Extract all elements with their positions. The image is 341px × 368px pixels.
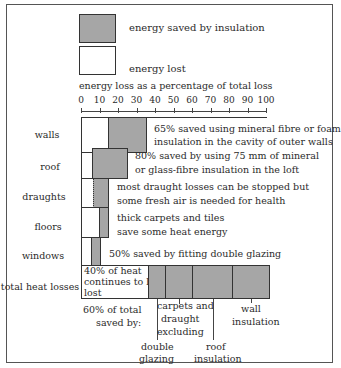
floors-note-line1: thick carpets and tiles [117, 212, 224, 224]
floors-note-line2: save some heat energy [117, 226, 227, 238]
axis-title: energy loss as a percentage of total los… [79, 80, 273, 92]
segment-label-carpets-1: carpets and [157, 300, 214, 312]
tick-label: 10 [94, 95, 105, 105]
segment-label-carpets-3: excluding [157, 326, 204, 338]
total-saved-wall [232, 265, 270, 299]
leader-roof [213, 299, 214, 340]
walls-note-line1: 65% saved using mineral fibre or foam [154, 123, 341, 135]
tick-label: 90 [242, 95, 253, 105]
draughts-note-line2: some fresh air is needed for health [117, 195, 285, 207]
legend-label-lost: energy lost [129, 63, 186, 75]
legend-swatch-saved [79, 14, 116, 43]
legend-label-saved: energy saved by insulation [129, 22, 265, 34]
axis-tick [229, 108, 230, 113]
top-margin [0, 0, 337, 3]
tick-label: 100 [257, 95, 274, 105]
segment-label-double-2: glazing [139, 353, 174, 365]
tick-label: 20 [112, 95, 123, 105]
floors-saved-bar [99, 207, 109, 238]
total-lost-line2: continues to be [84, 276, 158, 287]
segment-label-carpets-2: draught [161, 313, 199, 325]
total-lost-line1: 40% of heat [84, 265, 142, 276]
segment-label-roof-2: insulation [194, 353, 242, 365]
total-lost-line3: lost [84, 287, 101, 298]
tick-label: 70 [205, 95, 216, 105]
tick-label: 60 [186, 95, 197, 105]
row-label-windows: windows [22, 250, 64, 261]
draughts-saved-bar [93, 178, 109, 208]
roof-note-line1: 80% saved by using 75 mm of mineral [135, 150, 319, 162]
total-saved-roof [192, 265, 233, 299]
row-label-draughts: draughts [22, 191, 65, 202]
legend-swatch-lost [79, 46, 116, 75]
segment-label-wall-1: wall [241, 303, 261, 315]
tick-label: 30 [131, 95, 142, 105]
walls-note-line2: insulation in the cavity of outer walls [154, 136, 333, 148]
axis-tick [192, 108, 193, 113]
row-label-roof: roof [40, 161, 60, 172]
axis-tick [81, 108, 82, 113]
segment-label-double-1: double [141, 341, 174, 353]
total-saved-carpets-draught [165, 265, 193, 299]
row-label-floors: floors [34, 221, 61, 232]
axis-tick [266, 108, 267, 113]
row-label-total: total heat losses [1, 281, 79, 292]
tick-label: 40 [149, 95, 160, 105]
windows-saved-bar [91, 237, 101, 267]
roof-note-line2: or glass-fibre insulation in the loft [135, 164, 299, 176]
axis-tick [100, 108, 101, 113]
axis-tick [118, 108, 119, 113]
axis-tick [248, 108, 249, 113]
total-saved-line1: 60% of total [83, 304, 141, 316]
roof-saved-bar [92, 148, 128, 179]
segment-label-wall-2: insulation [232, 316, 280, 328]
total-saved-double-glazing [148, 265, 166, 299]
tick-label: 80 [223, 95, 234, 105]
windows-note: 50% saved by fitting double glazing [109, 248, 281, 260]
draughts-note-line1: most draught losses can be stopped but [117, 181, 309, 193]
axis-tick [211, 108, 212, 113]
tick-label: 50 [168, 95, 179, 105]
axis-tick [137, 108, 138, 113]
tick-label: 0 [78, 95, 84, 105]
row-label-walls: walls [35, 129, 60, 140]
segment-label-roof-1: roof [206, 341, 226, 353]
total-saved-line2: saved by: [96, 317, 141, 329]
floors-lost-bar [81, 207, 100, 238]
axis-tick [174, 108, 175, 113]
axis-tick [155, 108, 156, 113]
